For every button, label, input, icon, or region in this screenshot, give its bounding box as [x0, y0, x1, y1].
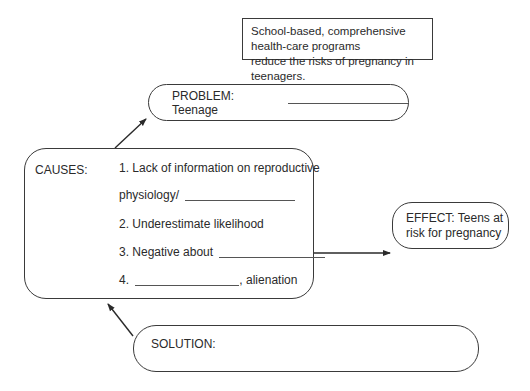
solution-box: SOLUTION: — [133, 325, 479, 372]
arrow-causes-to-problem — [115, 119, 146, 148]
effect-line-1: EFFECT: Teens at — [406, 211, 508, 226]
cause-1-line-1: 1. Lack of information on reproductive — [119, 161, 320, 175]
thesis-box: School-based, comprehensive health-care … — [242, 18, 433, 60]
thesis-line-1: School-based, comprehensive health-care … — [251, 24, 432, 54]
cause-item-1-cont: physiology/ — [119, 188, 295, 202]
problem-box: PROBLEM: Teenage — [148, 84, 409, 121]
cause-3-text: 3. Negative about — [119, 245, 213, 259]
effect-box: EFFECT: Teens at risk for pregnancy — [392, 202, 509, 249]
thesis-line-2: reduce the risks of pregnancy in teenage… — [251, 54, 432, 84]
cause-4-prefix: 4. — [119, 273, 129, 287]
cause-item-1: 1. Lack of information on reproductive — [119, 161, 320, 175]
causes-box: CAUSES: 1. Lack of information on reprod… — [24, 148, 314, 299]
cause-4-blank[interactable] — [135, 285, 239, 286]
cause-item-4: 4. , alienation — [119, 273, 297, 287]
cause-3-blank[interactable] — [219, 257, 325, 258]
arrow-solution-to-causes — [108, 304, 133, 336]
problem-blank[interactable] — [288, 103, 408, 104]
solution-label: SOLUTION: — [151, 337, 216, 351]
cause-item-3: 3. Negative about — [119, 245, 325, 259]
cause-4-suffix: , alienation — [239, 273, 297, 287]
causes-title: CAUSES: — [35, 163, 88, 177]
cause-1-blank[interactable] — [185, 200, 295, 201]
effect-line-2: risk for pregnancy — [406, 226, 508, 241]
problem-label: PROBLEM: Teenage — [172, 89, 283, 117]
cause-1-line-2: physiology/ — [119, 188, 179, 202]
cause-2-text: 2. Underestimate likelihood — [119, 217, 264, 231]
cause-item-2: 2. Underestimate likelihood — [119, 217, 264, 231]
